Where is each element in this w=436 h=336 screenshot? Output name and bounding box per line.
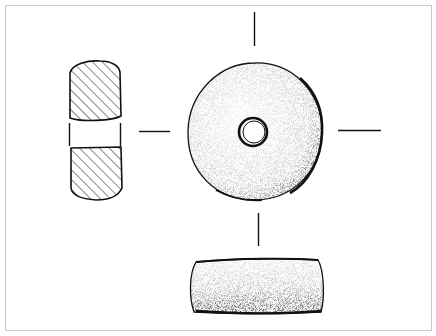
section-lower-block — [71, 147, 122, 200]
illustration-plate — [0, 0, 436, 336]
section-upper-block — [70, 61, 121, 121]
cross-section-view — [70, 61, 123, 200]
side-elevation-view — [186, 256, 328, 316]
plan-view-disc — [186, 60, 326, 205]
